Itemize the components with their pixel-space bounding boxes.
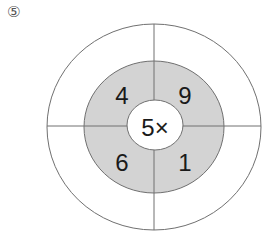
center-multiplier: 5× bbox=[141, 114, 168, 141]
ring-number-bottom-left: 6 bbox=[115, 149, 128, 176]
multiplication-wheel-diagram: 4 9 6 1 5× bbox=[0, 0, 273, 242]
ring-number-top-right: 9 bbox=[178, 82, 191, 109]
ring-number-top-left: 4 bbox=[115, 82, 128, 109]
ring-number-bottom-right: 1 bbox=[178, 149, 191, 176]
